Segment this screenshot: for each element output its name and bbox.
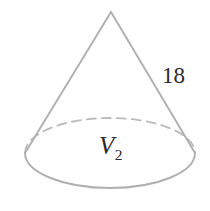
volume-label: V2 xyxy=(99,133,123,162)
cone-figure: 18 V2 xyxy=(0,0,210,211)
volume-symbol: V xyxy=(99,132,114,159)
slant-height-label: 18 xyxy=(162,64,185,87)
volume-subscript: 2 xyxy=(115,146,123,163)
cone-drawing xyxy=(0,0,210,211)
